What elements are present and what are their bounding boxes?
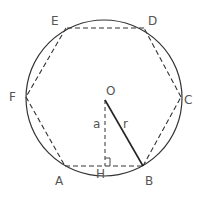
label-f: F [9, 90, 16, 104]
label-e: E [51, 14, 59, 28]
circumcircle [26, 20, 182, 176]
radius-ob [105, 100, 143, 166]
side-bc [143, 97, 181, 166]
label-c: C [184, 93, 192, 107]
label-r-radius: r [123, 117, 128, 131]
label-d: D [148, 14, 157, 28]
label-o: O [106, 84, 115, 98]
side-fa [26, 97, 65, 166]
label-a-apothem: a [93, 117, 100, 131]
right-angle-marker [105, 158, 110, 166]
label-h: H [96, 167, 105, 181]
label-a: A [55, 174, 64, 188]
side-ef [26, 28, 66, 97]
side-cd [144, 28, 181, 97]
hexagon-diagram: E D F C O a r A H B [0, 0, 203, 198]
label-b: B [145, 174, 153, 188]
hexagon-sides [26, 28, 181, 166]
